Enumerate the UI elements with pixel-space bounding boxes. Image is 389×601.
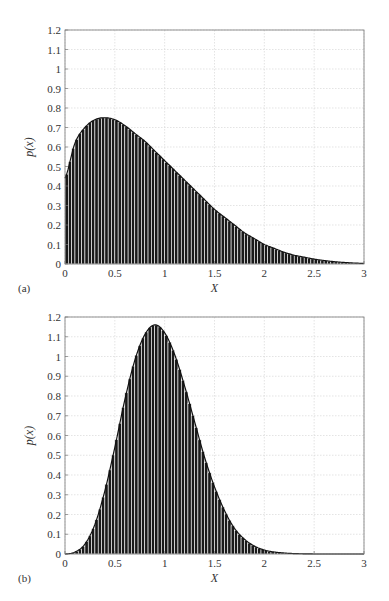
histogram-bar bbox=[98, 509, 101, 554]
histogram-bar bbox=[148, 146, 151, 264]
y-tick-label: 0.1 bbox=[47, 528, 61, 540]
histogram-bar bbox=[161, 159, 164, 264]
y-tick-label: 0.2 bbox=[47, 509, 61, 521]
histogram-bar bbox=[171, 169, 174, 264]
histogram-bar bbox=[238, 229, 241, 264]
histogram-bar bbox=[201, 198, 204, 264]
x-tick-label: 1 bbox=[162, 557, 168, 569]
histogram-bar bbox=[228, 221, 231, 264]
histogram-bar bbox=[278, 250, 281, 264]
histogram-bar bbox=[258, 242, 261, 264]
histogram-bar bbox=[291, 255, 294, 264]
histogram-bar bbox=[72, 148, 75, 264]
x-tick-label: 2 bbox=[262, 557, 268, 569]
histogram-bar bbox=[208, 473, 211, 554]
y-tick-label: 1.2 bbox=[47, 24, 61, 36]
histogram-bar bbox=[115, 440, 118, 554]
histogram-bar bbox=[118, 423, 121, 554]
histogram-bar bbox=[218, 213, 221, 264]
histogram-bar bbox=[224, 514, 227, 554]
histogram-bar bbox=[304, 258, 307, 264]
x-tick-label: 3 bbox=[361, 557, 367, 569]
histogram-bar bbox=[121, 124, 124, 264]
histogram-bar bbox=[105, 118, 108, 264]
y-tick-label: 0.6 bbox=[47, 141, 61, 153]
histogram-bar bbox=[105, 484, 108, 554]
x-tick-label: 0.5 bbox=[108, 267, 122, 279]
histogram-bar bbox=[251, 238, 254, 264]
histogram-bar bbox=[161, 330, 164, 554]
histogram-bar bbox=[131, 132, 134, 264]
histogram-bar bbox=[165, 162, 168, 264]
y-tick-label: 0.7 bbox=[47, 122, 61, 134]
histogram-bar bbox=[98, 118, 101, 264]
histogram-bar bbox=[195, 192, 198, 264]
x-tick-label: 0.5 bbox=[108, 557, 122, 569]
histogram-bar bbox=[175, 359, 178, 554]
histogram-bar bbox=[102, 118, 105, 264]
histogram-bar bbox=[175, 172, 178, 264]
histogram-bar bbox=[208, 205, 211, 264]
histogram-bar bbox=[284, 253, 287, 264]
histogram-bar bbox=[231, 224, 234, 264]
histogram-bar bbox=[301, 257, 304, 264]
histogram-bar bbox=[188, 404, 191, 554]
histogram-bar bbox=[234, 226, 237, 264]
x-axis-label: X bbox=[210, 571, 219, 585]
histogram-bar bbox=[125, 393, 128, 554]
x-tick-label: 2 bbox=[262, 267, 268, 279]
y-tick-label: 1.2 bbox=[47, 311, 61, 323]
histogram-bar bbox=[244, 541, 247, 554]
y-tick-label: 0 bbox=[56, 548, 62, 560]
histogram-bar bbox=[151, 325, 154, 554]
histogram-bar bbox=[151, 149, 154, 264]
y-tick-label: 0.3 bbox=[47, 489, 61, 501]
histogram-bar bbox=[112, 119, 115, 264]
y-tick-label: 0.3 bbox=[47, 200, 61, 212]
y-tick-label: 0.7 bbox=[47, 410, 61, 422]
histogram-bar bbox=[88, 123, 91, 264]
histogram-bar bbox=[271, 248, 274, 264]
y-tick-label: 0.9 bbox=[47, 83, 61, 95]
histogram-bar bbox=[178, 369, 181, 554]
histogram-bar bbox=[128, 379, 131, 554]
figure-panel-b: 00.10.20.30.40.50.60.70.80.911.11.200.51… bbox=[0, 300, 389, 601]
y-axis-label: p(x) bbox=[22, 137, 36, 157]
y-tick-label: 0.8 bbox=[47, 390, 61, 402]
histogram-bar bbox=[155, 153, 158, 264]
histogram-bar bbox=[131, 366, 134, 554]
histogram-bars bbox=[65, 325, 314, 554]
histogram-bar bbox=[155, 325, 158, 554]
histogram-bar bbox=[141, 140, 144, 264]
histogram-bar bbox=[108, 118, 111, 264]
y-tick-label: 0.4 bbox=[47, 469, 61, 481]
histogram-chart-a: 00.10.20.30.40.50.60.70.80.911.11.200.51… bbox=[0, 0, 389, 300]
y-axis-label: p(x) bbox=[22, 426, 36, 446]
histogram-bar bbox=[168, 166, 171, 264]
histogram-bar bbox=[201, 452, 204, 554]
histogram-bar bbox=[115, 120, 118, 264]
y-tick-label: 1 bbox=[56, 351, 62, 363]
histogram-bar bbox=[254, 240, 257, 264]
histogram-bar bbox=[135, 355, 138, 554]
histogram-bar bbox=[95, 119, 98, 264]
y-tick-label: 0.2 bbox=[47, 219, 61, 231]
histogram-bar bbox=[168, 342, 171, 554]
histogram-bar bbox=[221, 216, 224, 264]
histogram-bar bbox=[221, 507, 224, 554]
histogram-bar bbox=[141, 338, 144, 554]
histogram-bar bbox=[178, 175, 181, 264]
histogram-bar bbox=[158, 327, 161, 554]
histogram-bar bbox=[248, 543, 251, 554]
histogram-bar bbox=[185, 392, 188, 554]
histogram-bar bbox=[248, 236, 251, 264]
histogram-bar bbox=[215, 211, 218, 264]
y-tick-label: 0.9 bbox=[47, 370, 61, 382]
histogram-bar bbox=[185, 182, 188, 264]
histogram-bar bbox=[261, 244, 264, 264]
y-tick-label: 1.1 bbox=[47, 44, 61, 56]
histogram-bar bbox=[215, 491, 218, 554]
histogram-bar bbox=[268, 247, 271, 264]
x-axis-label: X bbox=[210, 281, 219, 295]
histogram-bar bbox=[82, 129, 85, 264]
